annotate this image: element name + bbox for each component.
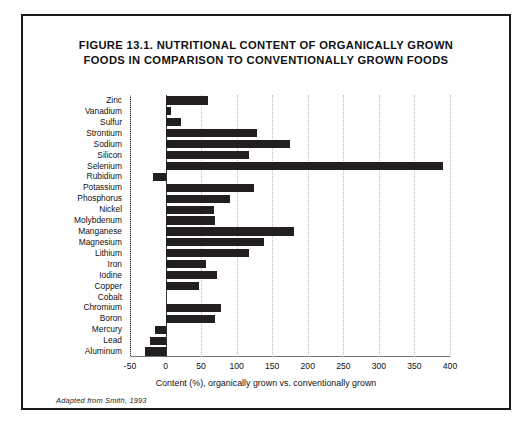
bar-rubidium (153, 173, 166, 181)
bar-row (130, 302, 450, 313)
category-label-zinc: Zinc (106, 95, 122, 106)
bar-row (130, 226, 450, 237)
source-note: Adapted from Smith, 1993 (56, 396, 147, 405)
category-label-nickel: Nickel (99, 204, 122, 215)
bar-mercury (155, 326, 166, 334)
value-axis-ticks: -50050100150200250300350400 (130, 361, 450, 375)
category-label-aluminum: Aluminum (85, 346, 122, 357)
bar-row (130, 346, 450, 357)
category-label-iron: Iron (108, 259, 122, 270)
bar-iodine (166, 271, 218, 279)
figure-frame: FIGURE 13.1. NUTRITIONAL CONTENT OF ORGA… (21, 14, 511, 410)
bar-row (130, 335, 450, 346)
bar-row (130, 139, 450, 150)
bar-row (130, 259, 450, 270)
bar-chromium (166, 304, 221, 312)
category-label-phosphorus: Phosphorus (77, 193, 122, 204)
bar-row (130, 171, 450, 182)
x-tick-50: 50 (196, 361, 206, 371)
bar-row (130, 106, 450, 117)
bar-sodium (166, 140, 290, 148)
x-tick-200: 200 (301, 361, 315, 371)
bar-row (130, 281, 450, 292)
bar-strontium (166, 129, 257, 137)
x-tick-400: 400 (443, 361, 457, 371)
bar-row (130, 117, 450, 128)
category-label-potassium: Potassium (83, 182, 122, 193)
gridline (450, 95, 451, 357)
bar-lead (150, 337, 166, 345)
category-label-sodium: Sodium (94, 139, 122, 150)
x-tick-0: 0 (163, 361, 168, 371)
category-axis-labels: ZincVanadiumSulfurStrontiumSodiumSilicon… (23, 95, 127, 357)
category-label-boron: Boron (100, 313, 122, 324)
bar-nickel (166, 206, 214, 214)
category-label-copper: Copper (95, 281, 122, 292)
category-label-selenium: Selenium (87, 161, 122, 172)
bar-row (130, 204, 450, 215)
bar-row (130, 270, 450, 281)
bar-row (130, 182, 450, 193)
category-label-vanadium: Vanadium (85, 106, 122, 117)
category-label-magnesium: Magnesium (79, 237, 122, 248)
figure-title-line-1: FIGURE 13.1. NUTRITIONAL CONTENT OF ORGA… (23, 38, 509, 53)
category-label-lithium: Lithium (95, 248, 122, 259)
bar-row (130, 193, 450, 204)
bar-potassium (166, 184, 255, 192)
bar-row (130, 215, 450, 226)
bar-row (130, 237, 450, 248)
bar-copper (166, 282, 199, 290)
x-tick-300: 300 (372, 361, 386, 371)
category-label-molybdenum: Molybdenum (74, 215, 122, 226)
bar-phosphorus (166, 195, 231, 203)
category-label-silicon: Silicon (97, 150, 122, 161)
bar-molybdenum (166, 216, 216, 224)
x-tick-150: 150 (265, 361, 279, 371)
bar-iron (166, 260, 207, 268)
bar-silicon (166, 151, 250, 159)
bar-magnesium (166, 238, 264, 246)
bar-vanadium (166, 107, 172, 115)
figure-title-line-2: FOODS IN COMPARISON TO CONVENTIONALLY GR… (23, 53, 509, 68)
category-label-mercury: Mercury (92, 324, 122, 335)
x-tick-100: 100 (229, 361, 243, 371)
bar-selenium (166, 162, 443, 170)
x-tick-350: 350 (407, 361, 421, 371)
bar-manganese (166, 227, 294, 235)
bar-row (130, 161, 450, 172)
x-tick-250: 250 (336, 361, 350, 371)
category-label-sulfur: Sulfur (100, 117, 122, 128)
bar-row (130, 292, 450, 303)
bar-row (130, 95, 450, 106)
bar-row (130, 150, 450, 161)
x-axis-title: Content (%), organically grown vs. conve… (23, 378, 509, 388)
bar-row (130, 324, 450, 335)
category-label-manganese: Manganese (78, 226, 122, 237)
category-label-rubidium: Rubidium (87, 171, 122, 182)
bar-aluminum (145, 347, 166, 355)
bar-zinc (166, 96, 209, 104)
figure-title: FIGURE 13.1. NUTRITIONAL CONTENT OF ORGA… (23, 38, 509, 68)
bar-row (130, 248, 450, 259)
bar-row (130, 313, 450, 324)
bar-sulfur (166, 118, 182, 126)
category-label-iodine: Iodine (99, 270, 122, 281)
category-label-cobalt: Cobalt (98, 292, 122, 303)
bar-row (130, 128, 450, 139)
category-label-strontium: Strontium (86, 128, 122, 139)
x-tick--50: -50 (124, 361, 136, 371)
bar-boron (166, 315, 216, 323)
category-label-lead: Lead (103, 335, 122, 346)
plot-area (130, 95, 450, 357)
category-label-chromium: Chromium (83, 302, 122, 313)
bar-lithium (166, 249, 250, 257)
